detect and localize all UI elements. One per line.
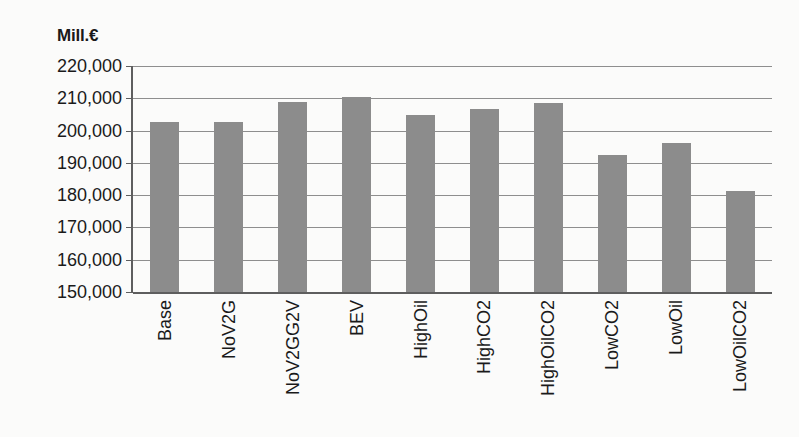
x-axis-category-label: HighOil	[412, 300, 430, 359]
y-axis-tick-label: 220,000	[57, 57, 122, 75]
bar	[278, 102, 307, 292]
y-axis-tick-mark	[126, 163, 133, 164]
x-axis-category-slot: Base	[150, 292, 179, 427]
x-axis-category-slot: HighOil	[406, 292, 435, 427]
x-axis-category-slot: HighCO2	[470, 292, 499, 427]
bar	[470, 109, 499, 292]
y-axis-tick-mark	[126, 66, 133, 67]
x-axis-category-label: BEV	[348, 300, 366, 336]
y-axis-unit-label: Mill.€	[57, 26, 98, 46]
x-axis-category-slot: LowCO2	[598, 292, 627, 427]
bar	[534, 103, 563, 292]
y-axis-tick-mark	[126, 227, 133, 228]
y-axis-tick-mark	[126, 131, 133, 132]
y-axis-tick-label: 210,000	[57, 89, 122, 107]
y-axis-tick-label: 190,000	[57, 154, 122, 172]
bar-chart-figure: Mill.€ 220,000210,000200,000190,000180,0…	[0, 0, 799, 437]
bar	[150, 122, 179, 292]
bar	[342, 97, 371, 292]
bar	[406, 115, 435, 292]
y-axis-tick-mark	[126, 292, 133, 293]
x-axis-category-label: HighOilCO2	[539, 300, 557, 396]
y-axis-tick-label: 170,000	[57, 218, 122, 236]
y-axis-tick-label: 200,000	[57, 122, 122, 140]
x-axis-category-label: LowOil	[667, 300, 685, 355]
bar	[726, 191, 755, 292]
y-axis-tick-label: 150,000	[57, 283, 122, 301]
y-axis-tick-mark	[126, 195, 133, 196]
y-axis-tick-mark	[126, 98, 133, 99]
x-axis-category-slot: LowOilCO2	[726, 292, 755, 427]
gridline	[133, 66, 772, 67]
y-axis-tick-label: 160,000	[57, 251, 122, 269]
x-axis-category-label: Base	[156, 300, 174, 341]
bar	[214, 122, 243, 292]
y-axis-tick-label: 180,000	[57, 186, 122, 204]
plot-area: 220,000210,000200,000190,000180,000170,0…	[131, 66, 770, 292]
x-axis-category-slot: NoV2G	[214, 292, 243, 427]
x-axis-category-label: LowOilCO2	[731, 300, 749, 392]
x-axis-category-slot: NoV2GG2V	[278, 292, 307, 427]
gridline	[133, 98, 772, 99]
x-axis-category-slot: BEV	[342, 292, 371, 427]
x-axis-category-slot: HighOilCO2	[534, 292, 563, 427]
y-axis-tick-mark	[126, 260, 133, 261]
x-axis-category-label: LowCO2	[603, 300, 621, 370]
bar	[662, 143, 691, 292]
x-axis-category-slot: LowOil	[662, 292, 691, 427]
x-axis-category-label: NoV2GG2V	[284, 300, 302, 395]
x-axis-category-label: NoV2G	[220, 300, 238, 359]
bar	[598, 155, 627, 292]
x-axis-category-label: HighCO2	[475, 300, 493, 374]
